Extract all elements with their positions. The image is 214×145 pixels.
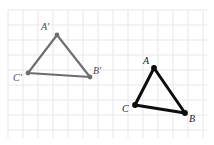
triangles-group: [26, 33, 188, 116]
vertex-dot-B-prime: [88, 75, 93, 80]
vertex-label-C: C: [122, 104, 129, 114]
vertex-label-C-prime: C': [13, 73, 22, 83]
vertex-label-B: B: [189, 114, 195, 124]
triangle-image: [28, 35, 90, 77]
vertex-dot-A: [151, 65, 157, 71]
vertex-label-A: A: [143, 56, 149, 66]
vertex-dot-C: [132, 102, 138, 108]
figure-canvas: [0, 0, 214, 145]
vertex-label-B-prime: B': [93, 66, 101, 76]
geometry-figure: A'B'C'ABC: [0, 0, 214, 145]
vertex-dot-A-prime: [55, 33, 60, 38]
vertex-dot-B: [182, 110, 188, 116]
vertex-label-A-prime: A': [41, 22, 49, 32]
vertex-dot-C-prime: [26, 71, 31, 76]
